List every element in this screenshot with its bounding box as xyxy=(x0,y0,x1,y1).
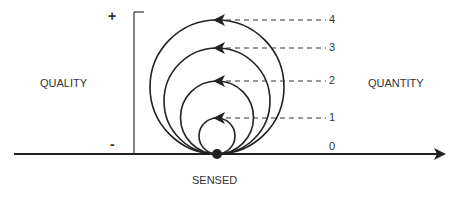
quantity-label: QUANTITY xyxy=(368,77,424,89)
sensed-origin-dot xyxy=(212,149,222,159)
horizontal-axis xyxy=(14,148,446,160)
axis-minus-sign: - xyxy=(110,136,115,152)
loop-2 xyxy=(180,81,217,154)
loop-1 xyxy=(199,118,217,154)
dashed-leaders xyxy=(226,20,326,118)
diagram-canvas xyxy=(0,0,460,199)
circular-loops xyxy=(150,20,284,154)
axis-plus-sign: + xyxy=(108,8,116,24)
level-4-label: 4 xyxy=(329,13,335,25)
loop-arrowheads xyxy=(213,14,225,124)
arrow-1-icon xyxy=(213,112,225,124)
sensed-label: SENSED xyxy=(192,174,237,186)
level-1-label: 1 xyxy=(329,111,335,123)
quality-scale-bracket xyxy=(134,12,144,154)
level-0-label: 0 xyxy=(329,140,335,152)
level-3-label: 3 xyxy=(329,41,335,53)
loop-3 xyxy=(164,48,217,154)
quality-label: QUALITY xyxy=(40,77,87,89)
level-2-label: 2 xyxy=(329,74,335,86)
